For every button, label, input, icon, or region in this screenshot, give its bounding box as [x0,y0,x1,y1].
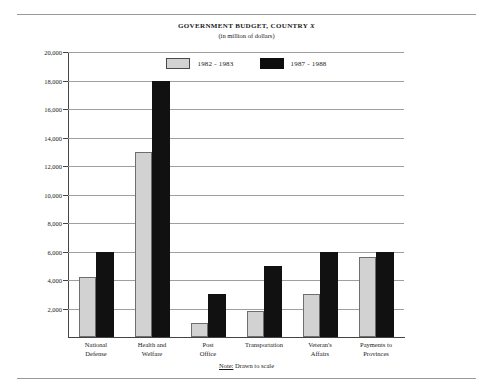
bar [152,81,170,338]
bar [320,252,338,338]
y-axis-tick-label: 8,000 [22,220,62,227]
bar [208,294,226,337]
bar [376,252,394,338]
y-axis-tick-label: 20,000 [22,49,62,56]
bar [359,257,377,337]
chart-note: Note: Drawn to scale [0,362,493,369]
x-axis-label-line: Office [172,350,244,359]
bar-series-group [68,52,404,337]
x-axis-label-line: Payments to [340,341,412,350]
x-axis-category-label: Payments toProvinces [340,341,412,358]
y-axis-tick-label: 6,000 [22,248,62,255]
bar [303,294,321,337]
y-axis-tick-label: 12,000 [22,163,62,170]
y-axis-labels: 20,00018,00016,00014,00012,00010,0008,00… [22,52,62,338]
x-axis-label-line: Provinces [340,350,412,359]
figure-container: GOVERNMENT BUDGET, COUNTRY X (in million… [0,0,493,392]
chart-title: GOVERNMENT BUDGET, COUNTRY X [0,22,493,30]
y-axis-tick-label: 16,000 [22,106,62,113]
bar [79,277,97,337]
bottom-rule [17,378,476,379]
y-axis-tick-label: 4,000 [22,277,62,284]
note-text: Drawn to scale [233,362,274,369]
note-label: Note: [219,362,233,369]
y-axis-tick-label: 14,000 [22,134,62,141]
y-axis-tick-label: 2,000 [22,305,62,312]
bar [247,311,265,337]
bar [96,252,114,338]
chart-subtitle: (in million of dollars) [0,32,493,39]
y-axis-tick-label: 18,000 [22,77,62,84]
top-rule [17,14,476,15]
bar [135,152,153,337]
x-axis-line [68,337,405,338]
bar [264,266,282,337]
bar [191,323,209,337]
y-axis-tick-label: 10,000 [22,191,62,198]
chart-title-country: X [310,22,315,30]
chart-title-text: GOVERNMENT BUDGET, COUNTRY [178,22,310,30]
plot-area [68,52,404,337]
